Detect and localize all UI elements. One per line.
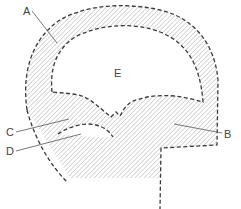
cross-section-diagram: A B C D E: [0, 0, 241, 209]
label-a: A: [23, 5, 31, 17]
label-c: C: [6, 126, 14, 138]
label-b: B: [224, 128, 231, 140]
label-d: D: [6, 145, 14, 157]
label-e: E: [114, 67, 121, 79]
